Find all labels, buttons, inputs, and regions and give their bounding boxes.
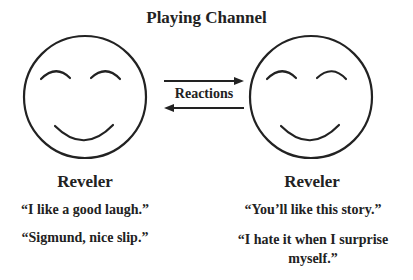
left-quote-1: “I like a good laugh.”	[0, 202, 170, 218]
left-arrow-icon	[164, 104, 244, 112]
left-smiley-face-icon	[24, 36, 146, 158]
right-smiley-face-icon	[250, 36, 372, 158]
reactions-label: Reactions	[164, 86, 244, 102]
left-quote-2: “Sigmund, nice slip.”	[0, 230, 170, 246]
right-arrow-icon	[164, 77, 244, 85]
left-reveler-name: Reveler	[0, 172, 170, 192]
right-reveler-name: Reveler	[230, 172, 394, 192]
right-quote-2: “I hate it when I surprise myself.”	[222, 230, 404, 268]
right-quote-1: “You’ll like this story.”	[218, 202, 408, 218]
